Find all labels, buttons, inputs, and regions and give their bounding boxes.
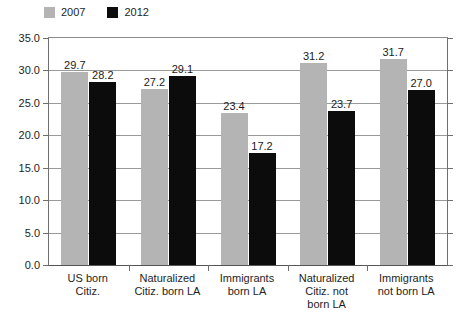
y-axis-tick-right (447, 265, 453, 266)
bar-2012-3: 17.2 (249, 153, 276, 265)
bar-value-label: 23.4 (223, 100, 244, 112)
category-label-line: Immigrants (366, 272, 446, 285)
bar-value-label: 27.2 (144, 76, 165, 88)
y-axis-tick (43, 168, 49, 169)
bar-2007-5: 31.7 (380, 59, 407, 265)
category-label-line: born LA (207, 285, 287, 298)
bar-2007-2: 27.2 (141, 89, 168, 265)
legend-swatch-2007-icon (44, 7, 55, 18)
bar-2012-5: 27.0 (408, 90, 435, 265)
bar-value-label: 29.1 (172, 63, 193, 75)
category-label-3: Immigrantsborn LA (207, 272, 287, 298)
bar-2007-3: 23.4 (221, 113, 248, 265)
bar-2007-4: 31.2 (300, 63, 327, 265)
category-label-line: not born LA (366, 285, 446, 298)
x-axis-tick (288, 265, 289, 271)
x-axis-tick (367, 265, 368, 271)
category-label-line: Citiz. (48, 285, 128, 298)
x-axis-tick (129, 265, 130, 271)
legend-entry-2007: 2007 (44, 7, 85, 18)
y-axis-label: 25.0 (19, 97, 40, 108)
legend-label-2012: 2012 (124, 7, 148, 18)
y-axis-tick (43, 265, 49, 266)
y-axis-label: 10.0 (19, 195, 40, 206)
y-axis-label: 5.0 (25, 227, 40, 238)
y-axis-label: 35.0 (19, 33, 40, 44)
bar-value-label: 28.2 (92, 69, 113, 81)
bar-value-label: 31.7 (382, 46, 403, 58)
category-label-line: Naturalized (128, 272, 208, 285)
y-axis-tick (43, 200, 49, 201)
y-axis-tick (43, 103, 49, 104)
category-label-line: Citiz. born LA (128, 285, 208, 298)
y-axis-tick-right (447, 135, 453, 136)
bar-2012-4: 23.7 (328, 111, 355, 265)
y-axis-tick-right (447, 103, 453, 104)
bar-2012-1: 28.2 (89, 82, 116, 265)
bar-value-label: 27.0 (410, 77, 431, 89)
legend-label-2007: 2007 (61, 7, 85, 18)
y-axis-tick-right (447, 200, 453, 201)
y-axis-label: 0.0 (25, 260, 40, 271)
category-label-2: NaturalizedCitiz. born LA (128, 272, 208, 298)
chart-legend: 2007 2012 (44, 4, 149, 20)
y-axis-label: 30.0 (19, 65, 40, 76)
y-axis-tick-right (447, 233, 453, 234)
category-label-line: born LA (287, 298, 367, 311)
x-axis-baseline (49, 265, 447, 266)
y-axis-tick (43, 70, 49, 71)
category-label-line: Immigrants (207, 272, 287, 285)
bar-value-label: 31.2 (303, 50, 324, 62)
category-label-line: US born (48, 272, 128, 285)
y-axis-label: 15.0 (19, 162, 40, 173)
plot-area: 35.030.025.020.015.010.05.00.029.728.227… (48, 37, 448, 265)
bar-2012-2: 29.1 (169, 76, 196, 265)
x-axis-category-labels: US bornCitiz.NaturalizedCitiz. born LAIm… (48, 272, 446, 322)
category-label-line: Citiz. not (287, 285, 367, 298)
category-label-4: NaturalizedCitiz. notborn LA (287, 272, 367, 311)
y-axis-tick (43, 38, 49, 39)
y-axis-label: 20.0 (19, 130, 40, 141)
x-axis-tick (208, 265, 209, 271)
y-axis-tick-right (447, 168, 453, 169)
bar-value-label: 17.2 (251, 140, 272, 152)
y-axis-tick-right (447, 38, 453, 39)
bar-chart: 2007 2012 35.030.025.020.015.010.05.00.0… (0, 0, 471, 327)
category-label-line: Naturalized (287, 272, 367, 285)
bar-value-label: 29.7 (64, 59, 85, 71)
y-axis-tick-right (447, 70, 453, 71)
category-label-1: US bornCitiz. (48, 272, 128, 298)
y-axis-tick (43, 233, 49, 234)
bar-2007-1: 29.7 (61, 72, 88, 265)
legend-swatch-2012-icon (107, 7, 118, 18)
bar-value-label: 23.7 (331, 98, 352, 110)
category-label-5: Immigrantsnot born LA (366, 272, 446, 298)
legend-entry-2012: 2012 (107, 7, 148, 18)
y-axis-tick (43, 135, 49, 136)
